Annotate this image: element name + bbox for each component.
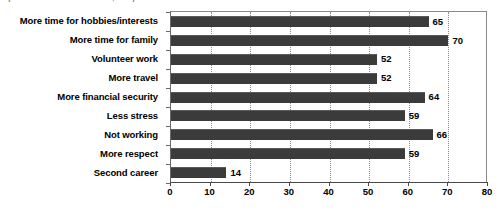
x-axis-tick-mark [408,182,409,186]
x-axis-tick-mark [447,182,448,186]
bar [171,110,405,121]
source-caption: (Source: Pew Research Center, 2005) [8,0,135,2]
bar [171,148,405,159]
category-label: Not working [0,125,163,144]
bar-row: 14 [171,163,486,182]
bar-row: 65 [171,12,486,31]
plot-inner: 657052526459665914 [171,12,486,182]
category-label: Less stress [0,106,163,125]
category-label: More financial security [0,87,163,106]
bar-value-label: 52 [381,73,392,83]
category-label: More travel [0,68,163,87]
bar-value-label: 64 [429,92,440,102]
x-axis-tick-mark [368,182,369,186]
category-label: More respect [0,144,163,163]
bar [171,73,377,84]
bar-row: 59 [171,106,486,125]
x-axis-tick-label: 60 [402,186,413,197]
bar-row: 66 [171,125,486,144]
x-axis-tick-label: 40 [323,186,334,197]
x-axis-tick-label: 10 [204,186,215,197]
category-label: Second career [0,163,163,182]
bar-value-label: 59 [409,149,420,159]
bar-row: 52 [171,50,486,69]
horizontal-bar-chart: (Source: Pew Research Center, 2005) More… [0,0,503,211]
category-label: More time for hobbies/interests [0,11,163,30]
bar [171,35,448,46]
x-axis-tick-label: 70 [442,186,453,197]
x-axis-tick-mark [487,182,488,186]
x-axis-tick-labels: 01020304050607080 [170,186,487,202]
category-label: More time for family [0,30,163,49]
bar-row: 64 [171,88,486,107]
bar [171,92,425,103]
category-label: Volunteer work [0,49,163,68]
bar-value-label: 14 [230,168,241,178]
bar-value-label: 65 [433,17,444,27]
bar-value-label: 52 [381,54,392,64]
x-axis-tick-mark [249,182,250,186]
x-axis-tick-label: 20 [244,186,255,197]
bar-row: 59 [171,144,486,163]
x-axis-tick-label: 0 [167,186,172,197]
plot-area: 657052526459665914 [170,11,487,182]
x-axis-tick-mark [210,182,211,186]
x-axis-tick-label: 30 [284,186,295,197]
bar-row: 52 [171,69,486,88]
category-axis-labels: More time for hobbies/interestsMore time… [0,11,163,182]
bar-value-label: 70 [452,36,463,46]
bar-value-label: 66 [437,130,448,140]
x-axis-tick-mark [289,182,290,186]
x-axis-tick-label: 50 [363,186,374,197]
bar [171,167,226,178]
bar [171,16,429,27]
x-axis-tick-mark [170,182,171,186]
bars-layer: 657052526459665914 [171,12,486,182]
bar [171,129,433,140]
x-axis-tick-label: 80 [482,186,493,197]
x-axis-tick-mark [329,182,330,186]
bar [171,54,377,65]
bar-value-label: 59 [409,111,420,121]
bar-row: 70 [171,31,486,50]
